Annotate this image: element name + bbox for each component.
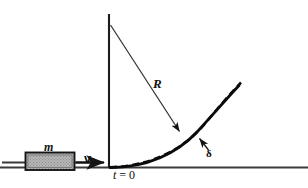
- radius-label: R: [153, 77, 162, 90]
- radius-arrow-icon: [111, 25, 180, 132]
- solid-curve-icon: [110, 86, 239, 168]
- figure-canvas: [0, 0, 308, 188]
- time-origin-value: = 0: [116, 168, 135, 182]
- velocity-label: v: [84, 152, 91, 165]
- time-origin-label: t = 0: [113, 169, 135, 181]
- physics-figure: R δ m v t = 0: [0, 0, 308, 188]
- deflection-label: δ: [206, 148, 212, 159]
- mass-label: m: [44, 141, 53, 153]
